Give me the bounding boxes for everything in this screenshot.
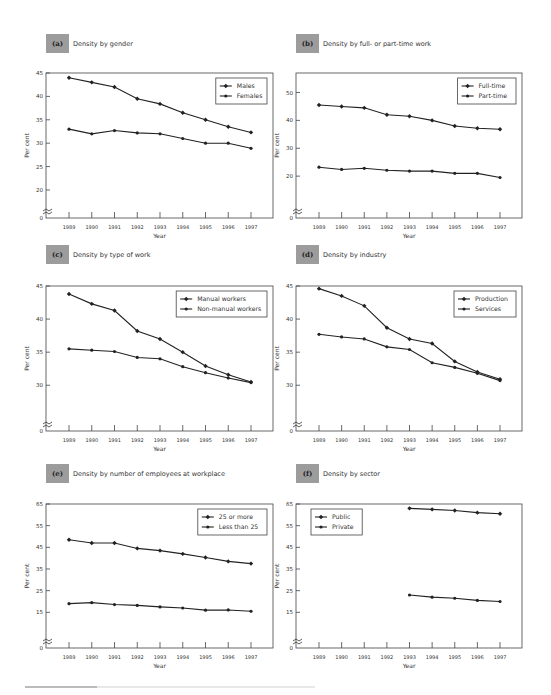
dot-marker-icon (181, 365, 184, 368)
dot-marker-icon (249, 147, 252, 150)
x-axis-label: Year (402, 445, 416, 452)
y-tick-label: 0 (290, 428, 294, 434)
series-line-services (319, 334, 500, 380)
plot-frame (46, 504, 273, 648)
x-tick-label: 1995 (199, 654, 212, 660)
dot-marker-icon (90, 132, 93, 135)
x-tick-label: 1991 (358, 437, 371, 443)
x-tick-label: 1989 (63, 437, 76, 443)
y-tick-label: 0 (40, 428, 44, 434)
dot-marker-icon (227, 376, 230, 379)
diamond-marker-icon (385, 325, 389, 329)
y-tick-label: 45 (36, 70, 43, 76)
y-tick-label: 40 (286, 316, 293, 322)
diamond-marker-icon (430, 507, 434, 511)
diamond-marker-icon (407, 506, 411, 510)
x-tick-label: 1990 (335, 654, 348, 660)
legend-entry-label: Full-time (479, 82, 506, 89)
panel-label-badge: (c) (46, 245, 69, 264)
series-line-25-or-more (69, 540, 251, 564)
x-tick-label: 1991 (358, 654, 371, 660)
y-tick-label: 35 (36, 117, 43, 123)
series-line-private (410, 595, 501, 602)
x-tick-label: 1990 (85, 654, 98, 660)
dot-marker-icon (408, 348, 411, 351)
panel-title: Density by type of work (73, 251, 150, 259)
axis-break-icon (293, 639, 302, 644)
diamond-marker-icon (181, 350, 185, 354)
dot-marker-icon (67, 128, 70, 131)
figure-caption-faded (25, 686, 315, 688)
y-tick-label: 40 (286, 117, 293, 123)
legend-entry-label: Manual workers (197, 295, 246, 302)
diamond-marker-icon (90, 302, 94, 306)
x-tick-label: 1989 (313, 654, 326, 660)
x-axis-label: Year (152, 232, 166, 239)
x-tick-label: 1997 (245, 224, 258, 230)
x-tick-label: 1994 (426, 224, 439, 230)
x-tick-label: 1994 (176, 437, 189, 443)
diamond-marker-icon (430, 341, 434, 345)
diamond-marker-icon (135, 546, 139, 550)
y-tick-label: 55 (286, 523, 293, 529)
y-tick-label: 45 (36, 544, 43, 550)
x-tick-label: 1994 (176, 224, 189, 230)
diamond-marker-icon (203, 364, 207, 368)
y-tick-label: 40 (36, 93, 43, 99)
x-tick-label: 1992 (131, 224, 144, 230)
axis-break-icon (43, 209, 52, 214)
y-tick-label: 20 (286, 173, 293, 179)
x-tick-label: 1993 (154, 654, 167, 660)
y-tick-label: 35 (36, 566, 43, 572)
y-tick-label: 35 (286, 349, 293, 355)
panel-title: Density by number of employees at workpl… (73, 470, 225, 478)
dot-marker-icon (136, 604, 139, 607)
y-tick-label: 0 (40, 645, 44, 651)
y-tick-label: 35 (286, 566, 293, 572)
axis-break-icon (43, 422, 52, 427)
panel-header-c: (c)Density by type of work (46, 245, 150, 264)
series-line-males (69, 78, 251, 133)
line-chart-a: 0202530354045Per cent1989199019911992199… (0, 0, 551, 695)
y-tick-label: 30 (286, 145, 293, 151)
diamond-marker-icon (498, 127, 502, 131)
diamond-marker-icon (407, 114, 411, 118)
x-tick-label: 1990 (335, 224, 348, 230)
legend: Manual workersNon-manual workers (176, 291, 267, 317)
legend-entry-label: Production (475, 295, 508, 302)
dot-marker-icon (158, 357, 161, 360)
diamond-marker-icon (226, 559, 230, 563)
dot-marker-icon (67, 347, 70, 350)
y-tick-label: 15 (36, 609, 43, 615)
legend-entry-label: Females (237, 92, 263, 99)
plot-frame (46, 73, 273, 218)
dot-marker-icon (227, 608, 230, 611)
dot-marker-icon (113, 603, 116, 606)
dot-marker-icon (498, 600, 501, 603)
diamond-marker-icon (67, 292, 71, 296)
diamond-marker-icon (249, 380, 253, 384)
x-tick-label: 1995 (199, 224, 212, 230)
y-axis-label: Per cent (23, 346, 30, 371)
dot-marker-icon (181, 606, 184, 609)
panel-label-badge: (a) (46, 34, 69, 53)
y-tick-label: 30 (286, 382, 293, 388)
x-axis-label: Year (152, 662, 166, 669)
x-tick-label: 1995 (199, 437, 212, 443)
dot-marker-icon (158, 605, 161, 608)
y-axis-label: Per cent (273, 133, 280, 158)
x-tick-label: 1994 (426, 437, 439, 443)
dot-marker-icon (340, 168, 343, 171)
dot-marker-icon (317, 333, 320, 336)
y-axis-label: Per cent (23, 133, 30, 158)
diamond-marker-icon (112, 85, 116, 89)
y-tick-label: 45 (286, 283, 293, 289)
diamond-marker-icon (249, 130, 253, 134)
diamond-marker-icon (67, 75, 71, 79)
y-tick-label: 25 (36, 588, 43, 594)
x-tick-label: 1997 (494, 654, 507, 660)
x-tick-label: 1995 (448, 654, 461, 660)
x-tick-label: 1996 (471, 654, 484, 660)
dot-marker-icon (431, 170, 434, 173)
series-line-non-manual-workers (69, 349, 251, 383)
